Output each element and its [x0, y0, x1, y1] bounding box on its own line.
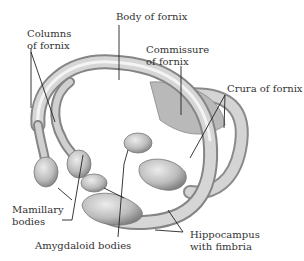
label-commissure-of-fornix: Commissure of fornix: [146, 44, 209, 68]
label-line-1: Commissure: [146, 44, 209, 56]
amygdaloid-body-upper: [124, 133, 152, 153]
label-line-2: of fornix: [27, 40, 71, 52]
label-hippocampus-with-fimbria: Hippocampus with fimbria: [190, 229, 260, 253]
label-crura-of-fornix: Crura of fornix: [227, 83, 302, 95]
label-line-1: Hippocampus: [190, 229, 260, 241]
amygdaloid-body-lower: [81, 174, 107, 192]
label-line-1: Columns: [27, 28, 71, 40]
label-line-2: of fornix: [146, 56, 209, 68]
mamillary-body-right: [67, 150, 91, 178]
label-body-of-fornix: Body of fornix: [116, 11, 187, 23]
mamillary-body-left: [34, 157, 58, 187]
hippocampus-lower: [82, 193, 142, 225]
label-line-1: Mamillary: [12, 204, 64, 216]
label-amygdaloid-bodies: Amygdaloid bodies: [35, 240, 131, 252]
fornix-diagram: Columns of fornix Body of fornix Commiss…: [0, 0, 304, 261]
label-line-2: with fimbria: [190, 241, 260, 253]
label-mamillary-bodies: Mamillary bodies: [12, 204, 64, 228]
hippocampus-upper: [139, 159, 186, 190]
label-columns-of-fornix: Columns of fornix: [27, 28, 71, 52]
label-line-2: bodies: [12, 216, 64, 228]
